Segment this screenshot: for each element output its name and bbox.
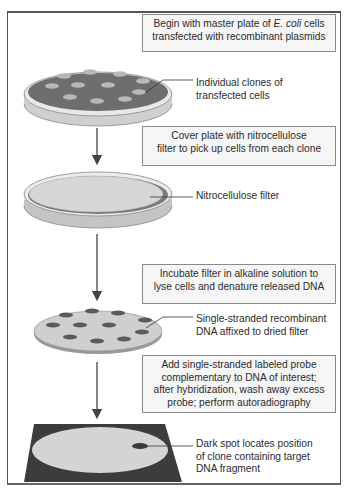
step-3-text-line1: Incubate filter in alkaline solution to — [160, 268, 319, 279]
callout-4-line1: Dark spot locates position — [196, 438, 313, 449]
callout-3-line1: Single-stranded recombinant — [196, 313, 326, 324]
callout-filter: Nitrocellulose filter — [196, 190, 279, 203]
step-2-text-line2: filter to pick up cells from each clone — [157, 143, 321, 154]
diagram-illustrations — [0, 0, 350, 496]
callout-dark-spot: Dark spot locates position of clone cont… — [196, 438, 313, 476]
dried-filter-with-dna-icon — [34, 308, 193, 354]
petri-dish-with-filter-icon — [24, 172, 193, 228]
step-3-box: Incubate filter in alkaline solution to … — [142, 264, 336, 304]
callout-dna: Single-stranded recombinant DNA affixed … — [196, 313, 326, 338]
step-1-text: Begin with master plate of — [153, 18, 273, 29]
step-4-text-line2: complementary to DNA of interest; — [161, 372, 316, 383]
step-2-text-line1: Cover plate with nitrocellulose — [171, 130, 306, 141]
step-4-text-line1: Add single-stranded labeled probe — [161, 359, 316, 370]
step-1-box: Begin with master plate of E. coli cells… — [142, 14, 336, 52]
organism-name: E. coli — [274, 18, 302, 29]
step-4-box: Add single-stranded labeled probe comple… — [142, 355, 336, 413]
step-3-text-line2: lyse cells and denature released DNA — [154, 281, 324, 292]
callout-4-line2: of clone containing target — [196, 451, 310, 462]
petri-dish-with-colonies-icon — [24, 69, 193, 126]
step-4-text-line4: probe; perform autoradiography — [167, 397, 310, 408]
callout-3-line2: DNA affixed to dried filter — [196, 326, 309, 337]
callout-1-line1: Individual clones of — [196, 77, 283, 88]
autoradiograph-film-icon — [24, 424, 193, 482]
callout-2-text: Nitrocellulose filter — [196, 190, 279, 201]
step-1-text-end: cells — [301, 18, 324, 29]
step-2-box: Cover plate with nitrocellulose filter t… — [142, 126, 336, 166]
callout-1-line2: transfected cells — [196, 90, 270, 101]
callout-4-line3: DNA fragment — [196, 463, 260, 474]
step-1-text-line2: transfected with recombinant plasmids — [152, 31, 325, 42]
step-4-text-line3: after hybridization, wash away excess — [153, 384, 324, 395]
callout-colonies: Individual clones of transfected cells — [196, 77, 283, 102]
